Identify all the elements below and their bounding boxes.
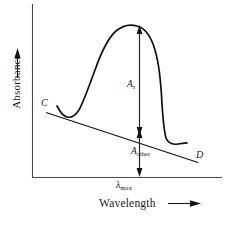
x-axis-arrow-icon — [168, 200, 201, 207]
point-d-label: D — [196, 150, 203, 160]
lambda-max-label: λmax — [116, 180, 132, 191]
baseline-cd — [46, 113, 198, 163]
a-sample-label: As — [127, 80, 135, 90]
a-sample-arrow — [137, 25, 143, 136]
spectrum-curve — [57, 25, 187, 144]
a-sample-subscript: s — [133, 83, 136, 90]
x-axis-label: Wavelength — [99, 198, 156, 210]
lambda-max-subscript: max — [120, 184, 132, 191]
point-c-label: C — [41, 98, 48, 108]
y-axis-label: Absorbance — [11, 37, 22, 127]
a-other-label: Aother — [131, 147, 150, 157]
a-other-subscript: other — [137, 150, 150, 157]
